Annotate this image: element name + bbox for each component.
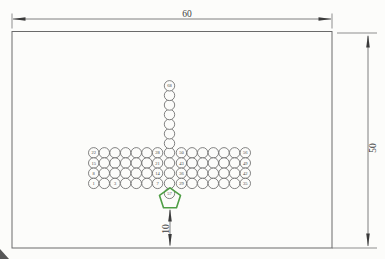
tube-circle <box>229 168 239 178</box>
scan-artifact <box>0 249 9 259</box>
tube-circle <box>110 158 120 168</box>
tube-circle <box>164 158 174 168</box>
tube-number: 68 <box>167 83 172 88</box>
arrowhead-down-icon <box>168 234 172 247</box>
tube-circle <box>164 109 174 119</box>
tube-number: 36 <box>179 171 184 176</box>
tube-circle <box>120 178 130 188</box>
tube-circle <box>187 158 197 168</box>
tube-circle <box>120 148 130 158</box>
tube-circle <box>219 148 229 158</box>
tube-circle <box>99 158 109 168</box>
tube-circle <box>120 158 130 168</box>
tube-circle <box>187 148 197 158</box>
tube-circle <box>131 158 141 168</box>
arrowhead-up-icon <box>366 35 370 48</box>
tube-circle <box>208 168 218 178</box>
tube-circle <box>219 158 229 168</box>
tube-circle <box>131 178 141 188</box>
tube-number: 14 <box>155 171 160 176</box>
top-dimension: 60 <box>12 9 332 29</box>
tube-circle <box>219 178 229 188</box>
arrowhead-down-icon <box>366 234 370 247</box>
tube-circle <box>229 148 239 158</box>
tube-circle <box>164 178 174 188</box>
drawing-page: 60 50 2228505615214349814364213729356857… <box>0 0 385 259</box>
tube-circle <box>164 119 174 129</box>
tube-number: 15 <box>91 161 96 166</box>
tube-circle <box>99 178 109 188</box>
tube-circle <box>229 158 239 168</box>
tube-circle <box>99 148 109 158</box>
tube-circle <box>198 178 208 188</box>
tube-circle <box>131 168 141 178</box>
tube-circle <box>208 178 218 188</box>
tube-circle <box>164 129 174 139</box>
tube-number: 22 <box>91 150 96 155</box>
technical-drawing: 60 50 2228505615214349814364213729356857… <box>0 0 385 259</box>
tube-circle <box>142 168 152 178</box>
right-dimension: 50 <box>332 33 378 248</box>
tube-circle <box>164 138 174 148</box>
tube-circle <box>208 148 218 158</box>
bottom-dimension: 10 <box>161 209 172 247</box>
tube-circle <box>142 158 152 168</box>
top-dimension-label: 60 <box>182 9 192 19</box>
tube-circle <box>198 168 208 178</box>
tube-number: 42 <box>243 171 248 176</box>
tube-circle <box>110 148 120 158</box>
tube-circle <box>187 168 197 178</box>
tube-number: 28 <box>155 150 160 155</box>
tube-number: 50 <box>179 150 184 155</box>
tube-circle <box>131 148 141 158</box>
tube-number: 35 <box>243 181 248 186</box>
arrowhead-left-icon <box>13 17 26 21</box>
tube-circles: 2228505615214349814364213729356857 <box>89 81 251 199</box>
tube-circle <box>219 168 229 178</box>
bottom-dimension-label: 10 <box>161 224 171 234</box>
tube-circle <box>198 158 208 168</box>
tube-circle <box>164 148 174 158</box>
arrowhead-up-icon <box>168 209 172 222</box>
tube-circle <box>142 178 152 188</box>
tube-number: 43 <box>179 161 184 166</box>
tube-number: 21 <box>155 161 160 166</box>
tube-circle <box>120 168 130 178</box>
tube-circle <box>187 178 197 188</box>
tube-number: 57 <box>167 191 172 196</box>
tube-circle <box>142 148 152 158</box>
tube-number: 56 <box>243 150 248 155</box>
tube-circle <box>229 178 239 188</box>
tube-circle <box>110 168 120 178</box>
tube-circle <box>164 90 174 100</box>
tube-circle <box>164 168 174 178</box>
tube-circle <box>208 158 218 168</box>
arrowhead-right-icon <box>319 17 332 21</box>
tube-circle <box>198 148 208 158</box>
tube-circle <box>99 168 109 178</box>
tube-number: 49 <box>243 161 248 166</box>
tube-circle <box>164 100 174 110</box>
tube-number: 29 <box>179 181 184 186</box>
right-dimension-label: 50 <box>368 143 378 153</box>
tube-number: 1 <box>93 181 95 186</box>
